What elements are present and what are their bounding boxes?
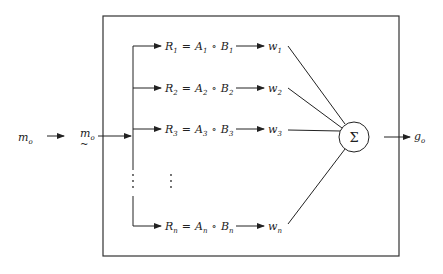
svg-text:mo: mo xyxy=(18,131,33,146)
svg-text:wn: wn xyxy=(268,220,282,235)
input-label: mo xyxy=(18,131,33,146)
svg-text:w3: w3 xyxy=(268,123,282,138)
svg-text:w1: w1 xyxy=(268,40,282,55)
rule-row-2: R2=A2∘B2 w2 xyxy=(133,82,342,128)
summation-node: Σ xyxy=(339,122,369,152)
svg-text:~: ~ xyxy=(80,138,88,149)
output-label: go xyxy=(414,130,425,145)
ellipsis-middle xyxy=(170,174,172,188)
rule-row-3: R3=A3∘B3 w3 xyxy=(133,123,340,138)
fuzzified-input-label: mo ~ xyxy=(80,127,95,149)
svg-text:R1=A1∘B1: R1=A1∘B1 xyxy=(164,40,233,55)
fuzzy-rule-diagram: mo mo ~ R1=A1∘B1 w1 R2=A2∘B2 w2 R3= xyxy=(0,0,443,274)
svg-text:w2: w2 xyxy=(268,82,282,97)
sigma-icon: Σ xyxy=(349,130,358,145)
svg-text:Rn=An∘Bn: Rn=An∘Bn xyxy=(164,220,234,235)
rule-row-n: Rn=An∘Bn wn xyxy=(133,149,345,235)
svg-text:go: go xyxy=(414,130,425,145)
ellipsis-left xyxy=(132,174,134,188)
svg-text:R3=A3∘B3: R3=A3∘B3 xyxy=(164,123,234,138)
svg-text:R2=A2∘B2: R2=A2∘B2 xyxy=(164,82,234,97)
